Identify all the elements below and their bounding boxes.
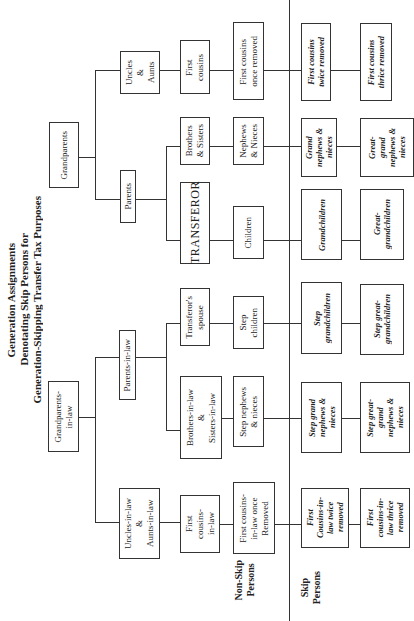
- box-grandparents: Grandparents: [49, 122, 79, 188]
- connector: [95, 70, 120, 71]
- connector: [166, 146, 180, 147]
- box-transferor: TRANSFEROR: [180, 182, 210, 264]
- box-step-nephews-nieces: Step nephews & nieces: [233, 376, 264, 447]
- box-step-great-grand-nephews-nieces: Step great- grand nephews & nieces: [360, 382, 410, 453]
- box-children: Children: [233, 206, 264, 259]
- connector: [210, 146, 233, 147]
- connector: [166, 323, 167, 430]
- connector: [275, 524, 301, 525]
- box-first-cousins-once-removed: First cousins once removed: [233, 22, 264, 100]
- connector: [349, 524, 360, 525]
- box-great-grand-nephews-nieces: Great- grand nephews & nieces: [360, 118, 414, 177]
- box-parents-in-law: Parents-in-law: [119, 330, 136, 400]
- connector: [160, 70, 180, 71]
- skip-label: Skip Persons: [294, 555, 328, 621]
- connector: [264, 70, 301, 71]
- box-grandparents-in-law: Grandparents- in-law: [48, 381, 79, 452]
- box-first-cousins-in-law-thrice-removed: First cousins-in- law thrice removed: [360, 488, 410, 548]
- box-parents: Parents: [120, 170, 136, 223]
- connector: [166, 323, 180, 324]
- connector: [342, 418, 360, 419]
- box-uncles-aunts: Uncles & Aunts: [120, 51, 160, 94]
- connector: [220, 524, 233, 525]
- diagram-title: Generation Assignments Denotating Skip P…: [2, 160, 46, 440]
- box-nephews-nieces: Nephews & Nieces: [233, 117, 264, 165]
- box-grandchildren: Grandchildren: [301, 189, 342, 260]
- connector: [264, 146, 301, 147]
- connector: [95, 522, 119, 523]
- connector: [79, 157, 95, 158]
- box-brothers-sisters: Brothers & Sisters: [180, 117, 210, 165]
- box-first-cousins: First cousins: [180, 40, 210, 94]
- box-first-cousins-thrice-removed: First cousins thrice removed: [360, 23, 392, 101]
- box-grand-nephews-nieces: Grand nephews & nieces: [301, 118, 337, 177]
- connector: [95, 70, 96, 200]
- connector: [342, 240, 360, 241]
- connector: [166, 240, 180, 241]
- connector: [222, 418, 233, 419]
- box-step-children: Step children: [233, 296, 264, 349]
- box-step-grand-nephews-nieces: Step grand nephews & nieces: [301, 382, 342, 453]
- connector: [79, 417, 95, 418]
- connector: [264, 323, 301, 324]
- connector: [95, 357, 96, 523]
- connector: [136, 357, 166, 358]
- box-first-cousins-twice-removed: First cousins twice removed: [301, 23, 331, 101]
- connector: [337, 146, 360, 147]
- connector: [331, 70, 360, 71]
- box-first-cousins-in-law-twice-removed: First Cousins-in- law twice removed: [301, 488, 349, 548]
- box-step-grandchildren: Step grandchildren: [301, 282, 342, 354]
- box-step-great-grandchildren: Step great- grandchildren: [360, 284, 404, 355]
- box-uncles-aunts-in-law: Uncles-in-law & Aunts-in-law: [119, 488, 160, 559]
- connector: [95, 199, 120, 200]
- box-brothers-sisters-in-law: Brothers-in-law & Sisters-in-law: [180, 376, 222, 459]
- connector: [342, 323, 360, 324]
- connector: [264, 418, 301, 419]
- connector: [264, 240, 301, 241]
- box-great-grandchildren: Great- grandchildren: [360, 189, 404, 260]
- connector: [210, 70, 233, 71]
- connector: [136, 199, 166, 200]
- box-first-cousins-in-law-once-removed: First cousins- in-law once Removed: [233, 482, 275, 554]
- connector: [166, 430, 180, 431]
- skip-divider-line: [289, 0, 290, 621]
- connector: [210, 323, 233, 324]
- connector: [95, 357, 119, 358]
- box-transferors-spouse: Transferor's spouse: [180, 288, 210, 346]
- connector: [210, 240, 233, 241]
- connector: [160, 522, 180, 523]
- connector: [166, 146, 167, 240]
- box-first-cousins-in-law: First cousins- in-law: [180, 495, 220, 553]
